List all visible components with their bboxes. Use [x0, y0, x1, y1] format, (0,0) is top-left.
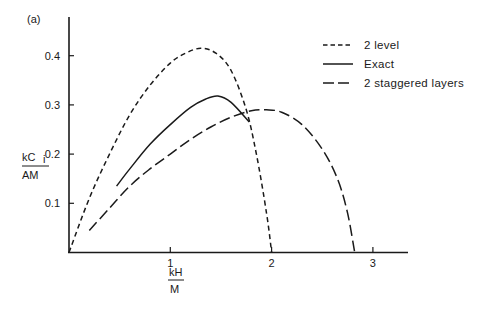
chart: (a) 0.10.20.30.4 123 kC i AM kH M 2 leve…: [0, 0, 488, 310]
y-axis-label: kC i AM: [22, 151, 49, 181]
panel-label: (a): [27, 13, 40, 25]
svg-text:kH: kH: [169, 266, 183, 278]
y-tick-label: 0.4: [45, 50, 60, 62]
legend: 2 levelExact2 staggered layers: [323, 39, 464, 89]
axes: 0.10.20.30.4 123: [45, 17, 408, 269]
legend-label: 2 level: [364, 39, 399, 51]
x-tick-label: 2: [269, 257, 275, 269]
y-tick-label: 0.3: [45, 99, 60, 111]
svg-text:M: M: [170, 283, 179, 295]
x-tick-label: 3: [370, 257, 376, 269]
y-tick-label: 0.2: [45, 148, 60, 160]
x-ticks: 123: [167, 247, 376, 269]
legend-label: 2 staggered layers: [364, 77, 464, 89]
legend-label: Exact: [364, 58, 395, 70]
series-2-staggered-layers: [89, 110, 354, 253]
svg-text:kC: kC: [22, 151, 36, 163]
svg-text:AM: AM: [22, 169, 39, 181]
x-axis-label: kH M: [168, 266, 184, 295]
plot-lines: [69, 48, 355, 252]
series-exact: [117, 96, 250, 186]
svg-text:i: i: [43, 153, 45, 165]
y-tick-label: 0.1: [45, 197, 60, 209]
series-2-level: [69, 48, 272, 252]
